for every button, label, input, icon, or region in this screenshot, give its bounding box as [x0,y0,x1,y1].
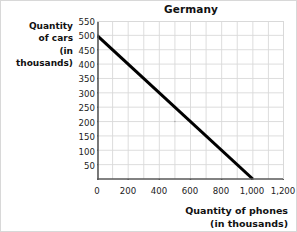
y-axis-label: Quantity of cars (in thousands) [1,20,73,69]
y-tick-label: 50 [69,162,95,171]
plot-svg [97,21,284,180]
x-axis-label-line-1: Quantity of phones [111,205,288,218]
y-tick-label: 350 [69,75,95,84]
y-tick-label: 300 [69,90,95,99]
y-tick-label: 500 [69,32,95,41]
chart-figure: Germany Quantity of cars (in thousands) … [0,0,297,232]
y-tick-label: 550 [69,18,95,27]
x-axis-label-line-2: (in thousands) [111,218,288,231]
y-tick-label: 400 [69,61,95,70]
x-axis-label: Quantity of phones (in thousands) [111,205,288,230]
y-tick-label: 250 [69,104,95,113]
y-tick-label: 150 [69,133,95,142]
plot-area [97,21,284,180]
y-tick-label: 450 [69,47,95,56]
stray-dot-artifact [174,121,176,123]
y-axis-label-line-1: Quantity [1,20,73,32]
chart-title: Germany [97,3,285,15]
y-axis-label-line-2: of cars [1,32,73,44]
x-tick-label: 1,200 [263,187,297,196]
y-axis-label-line-3: (in thousands) [1,45,73,70]
y-tick-label: 100 [69,148,95,157]
y-tick-label: 200 [69,119,95,128]
